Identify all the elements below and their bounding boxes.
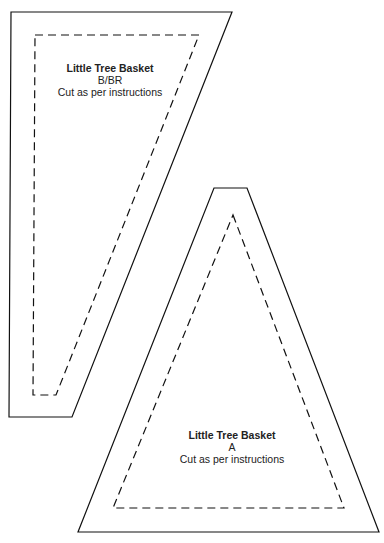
piece-b-label: Little Tree Basket B/BR Cut as per instr… [50,62,170,98]
piece-b-instruction: Cut as per instructions [50,86,170,98]
piece-a-title: Little Tree Basket [172,429,292,441]
piece-a-label: Little Tree Basket A Cut as per instruct… [172,429,292,465]
piece-a-code: A [172,441,292,453]
piece-a-instruction: Cut as per instructions [172,453,292,465]
piece-b-title: Little Tree Basket [50,62,170,74]
piece-a-shape [78,188,379,532]
piece-b-code: B/BR [50,74,170,86]
piece-a-cut-line [78,188,379,532]
